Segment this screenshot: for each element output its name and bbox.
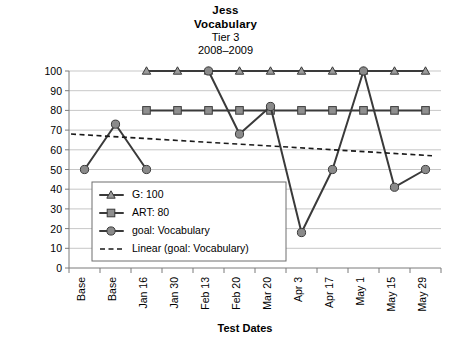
y-tick-label: 100 <box>44 65 62 77</box>
y-tick-label: 30 <box>50 203 62 215</box>
x-tick-label: Jan 16 <box>137 277 149 309</box>
data-point-circle <box>390 183 398 191</box>
y-tick-label: 0 <box>56 262 62 274</box>
chart-plot: 0102030405060708090100 BaseBaseJan 16Jan… <box>0 0 451 338</box>
x-tick-label: Jan 30 <box>168 277 180 309</box>
data-point-square <box>236 107 244 115</box>
y-tick-label: 40 <box>50 183 62 195</box>
legend-label-linear-goal-vocabulary-: Linear (goal: Vocabulary) <box>132 242 249 254</box>
x-tick-label: Apr 3 <box>292 277 304 302</box>
x-tick-label: May 15 <box>385 277 397 312</box>
data-point-square <box>107 209 115 217</box>
x-tick-label: Feb 13 <box>199 277 211 310</box>
data-point-square <box>143 107 151 115</box>
data-point-square <box>205 107 213 115</box>
data-point-square <box>174 107 182 115</box>
data-point-circle <box>266 102 274 110</box>
y-tick-label: 20 <box>50 223 62 235</box>
chart-legend: G: 100ART: 80goal: VocabularyLinear (goa… <box>92 182 286 261</box>
data-point-circle <box>235 130 243 138</box>
x-tick-label: May 29 <box>416 277 428 312</box>
data-point-circle <box>204 67 212 75</box>
series-line-goal-vocabulary <box>85 124 147 169</box>
data-point-square <box>391 107 399 115</box>
x-axis-title: Test Dates <box>218 322 273 334</box>
x-tick-label: Mar 20 <box>261 277 273 310</box>
data-point-circle <box>297 228 305 236</box>
data-point-square <box>360 107 368 115</box>
x-tick-label: May 1 <box>354 277 366 306</box>
trendline-goal-vocabulary <box>71 134 432 156</box>
data-point-circle <box>80 165 88 173</box>
x-tick-label: Apr 17 <box>323 277 335 308</box>
x-tick-label: Base <box>106 277 118 301</box>
data-point-circle <box>328 165 336 173</box>
x-tick-label: Feb 20 <box>230 277 242 310</box>
y-tick-label: 80 <box>50 104 62 116</box>
x-axis-tick-labels: BaseBaseJan 16Jan 30Feb 13Feb 20Mar 20Ap… <box>75 277 428 312</box>
data-point-square <box>422 107 430 115</box>
data-point-circle <box>107 227 115 235</box>
data-point-circle <box>421 165 429 173</box>
data-point-square <box>298 107 306 115</box>
data-point-circle <box>111 120 119 128</box>
data-point-circle <box>142 165 150 173</box>
chart-container: Jess Vocabulary Tier 3 2008–2009 0102030… <box>0 0 451 338</box>
y-tick-label: 10 <box>50 242 62 254</box>
x-tick-label: Base <box>75 277 87 301</box>
legend-label-goal-vocabulary: goal: Vocabulary <box>132 224 210 236</box>
y-tick-label: 50 <box>50 164 62 176</box>
legend-label-art-80: ART: 80 <box>132 206 169 218</box>
y-tick-label: 70 <box>50 124 62 136</box>
legend-label-g-100: G: 100 <box>132 188 164 200</box>
data-point-square <box>329 107 337 115</box>
data-point-circle <box>359 67 367 75</box>
y-tick-label: 90 <box>50 85 62 97</box>
y-tick-label: 60 <box>50 144 62 156</box>
y-axis-tick-labels: 0102030405060708090100 <box>44 65 62 274</box>
